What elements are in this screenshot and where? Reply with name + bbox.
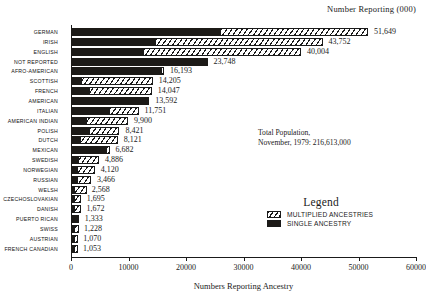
- bar-segment-multiplied-ancestries: [80, 136, 117, 144]
- bar-value-label: 2,568: [92, 185, 110, 195]
- category-label: DUTCH: [0, 135, 58, 145]
- bar-value-label: 14,047: [158, 86, 180, 96]
- legend-label-multiplied-ancestries: MULTIPLIED ANCESTRIES: [287, 211, 373, 218]
- bar-value-label: 1,695: [87, 194, 105, 204]
- category-label: SCOTTISH: [0, 76, 58, 86]
- bar-segment-multiplied-ancestries: [74, 205, 81, 213]
- x-tick-label: 0: [69, 263, 73, 272]
- bar-row: NOT REPORTED23,748: [71, 57, 416, 67]
- bar-row: SCOTTISH14,205: [71, 76, 416, 86]
- legend-swatch-hatched-icon: [267, 211, 281, 218]
- category-label: MEXICAN: [0, 145, 58, 155]
- bar-segment-multiplied-ancestries: [106, 146, 110, 154]
- bar-segment-single-ancestry: [71, 117, 86, 125]
- bar-value-label: 4,886: [105, 155, 123, 165]
- bar-segment-single-ancestry: [71, 215, 79, 223]
- bar-segment-single-ancestry: [71, 107, 109, 115]
- stacked-bar: [71, 156, 99, 164]
- stacked-bar: [71, 235, 78, 243]
- category-label: WELSH: [0, 185, 58, 195]
- bar-value-label: 1,228: [84, 224, 102, 234]
- x-tick-label: 50000: [349, 263, 369, 272]
- legend: Legend MULTIPLIED ANCESTRIES SINGLE ANCE…: [255, 196, 405, 229]
- category-label: POLISH: [0, 126, 58, 136]
- bar-row: FRENCH CANADIAN1,053: [71, 244, 416, 254]
- chart-title: Number Reporting (000): [327, 4, 416, 14]
- stacked-bar: [71, 38, 323, 46]
- bar-segment-multiplied-ancestries: [220, 28, 368, 36]
- bar-segment-multiplied-ancestries: [74, 195, 81, 203]
- category-label: AUSTRIAN: [0, 234, 58, 244]
- bar-row: ITALIAN11,751: [71, 106, 416, 116]
- bar-segment-single-ancestry: [71, 48, 143, 56]
- bar-segment-multiplied-ancestries: [161, 67, 165, 75]
- bar-segment-multiplied-ancestries: [77, 166, 95, 174]
- x-tick-mark: [186, 257, 187, 261]
- bar-value-label: 43,752: [329, 37, 351, 47]
- bar-segment-multiplied-ancestries: [78, 156, 99, 164]
- bar-row: AUSTRIAN1,070: [71, 234, 416, 244]
- x-tick-label: 10000: [119, 263, 139, 272]
- bar-row: MEXICAN6,682: [71, 145, 416, 155]
- stacked-bar: [71, 136, 118, 144]
- bar-segment-multiplied-ancestries: [89, 127, 119, 135]
- category-label: AMERICAN: [0, 96, 58, 106]
- bar-segment-single-ancestry: [71, 28, 220, 36]
- category-label: AFRO-AMERICAN: [0, 66, 58, 76]
- stacked-bar: [71, 195, 81, 203]
- stacked-bar: [71, 97, 149, 105]
- bar-value-label: 14,205: [159, 76, 181, 86]
- bar-segment-single-ancestry: [71, 146, 106, 154]
- category-label: FRENCH: [0, 86, 58, 96]
- bar-value-label: 4,120: [101, 165, 119, 175]
- bar-segment-single-ancestry: [71, 77, 81, 85]
- bar-value-label: 16,193: [170, 66, 192, 76]
- bar-row: DUTCH8,121: [71, 135, 416, 145]
- bar-segment-multiplied-ancestries: [74, 225, 79, 233]
- legend-swatch-solid-icon: [267, 220, 281, 227]
- bar-segment-single-ancestry: [71, 97, 149, 105]
- x-tick-label: 60000: [406, 263, 426, 272]
- bar-segment-single-ancestry: [71, 136, 80, 144]
- x-tick-mark: [359, 257, 360, 261]
- category-label: IRISH: [0, 37, 58, 47]
- bar-value-label: 11,751: [145, 106, 167, 116]
- bar-value-label: 6,682: [115, 145, 133, 155]
- stacked-bar: [71, 48, 301, 56]
- ancestry-bar-chart: Number Reporting (000) GERMAN51,649IRISH…: [0, 0, 426, 304]
- x-tick-mark: [129, 257, 130, 261]
- stacked-bar: [71, 107, 139, 115]
- bar-row: NORWEGIAN4,120: [71, 165, 416, 175]
- bar-row: AMERICAN INDIAN9,900: [71, 116, 416, 126]
- x-tick-label: 30000: [234, 263, 254, 272]
- bar-row: POLISH8,421: [71, 126, 416, 136]
- bar-segment-multiplied-ancestries: [81, 77, 152, 85]
- stacked-bar: [71, 146, 110, 154]
- stacked-bar: [71, 67, 164, 75]
- x-tick-mark: [244, 257, 245, 261]
- bar-segment-multiplied-ancestries: [109, 107, 139, 115]
- category-label: GERMAN: [0, 27, 58, 37]
- bar-value-label: 23,748: [214, 57, 236, 67]
- x-tick-label: 20000: [176, 263, 196, 272]
- x-tick-mark: [301, 257, 302, 261]
- category-label: PUERTO RICAN: [0, 214, 58, 224]
- bar-value-label: 13,592: [155, 96, 177, 106]
- bar-row: AMERICAN13,592: [71, 96, 416, 106]
- stacked-bar: [71, 77, 153, 85]
- bar-segment-multiplied-ancestries: [86, 117, 128, 125]
- category-label: SWISS: [0, 224, 58, 234]
- bar-segment-single-ancestry: [71, 58, 208, 66]
- category-label: CZECHOSLOVAKIAN: [0, 194, 58, 204]
- bar-segment-multiplied-ancestries: [77, 176, 91, 184]
- category-label: SWEDISH: [0, 155, 58, 165]
- stacked-bar: [71, 205, 81, 213]
- stacked-bar: [71, 225, 79, 233]
- bar-row: WELSH2,568: [71, 185, 416, 195]
- bar-segment-multiplied-ancestries: [74, 235, 79, 243]
- bar-segment-single-ancestry: [71, 38, 155, 46]
- stacked-bar: [71, 28, 368, 36]
- category-label: FRENCH CANADIAN: [0, 244, 58, 254]
- bar-row: RUSSIAN3,466: [71, 175, 416, 185]
- legend-item-single-ancestry: SINGLE ANCESTRY: [255, 220, 405, 227]
